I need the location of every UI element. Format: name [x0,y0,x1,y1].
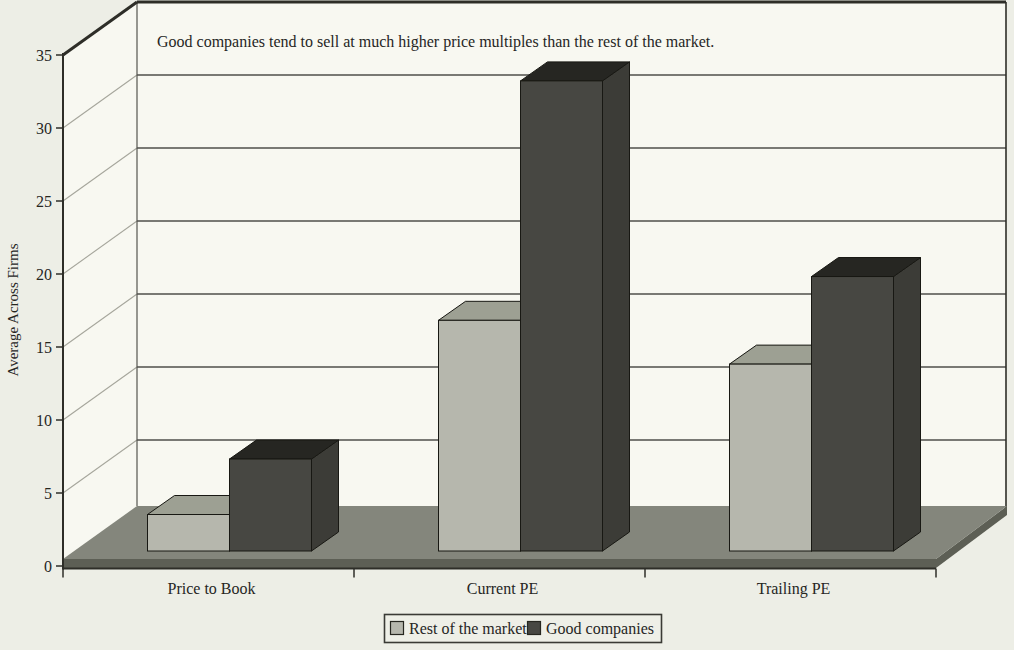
bar-front-face [730,364,812,551]
y-tick-label: 10 [36,412,52,429]
y-tick-label: 30 [36,120,52,137]
bar-chart-canvas: 05101520253035Price to BookCurrent PETra… [0,0,1014,650]
x-category-label: Price to Book [168,580,256,597]
legend-swatch-good-companies [528,622,541,635]
y-tick-label: 25 [36,193,52,210]
bar-current-pe-good-companies [521,62,630,551]
legend-label-rest-of-market: Rest of the market [409,620,527,637]
bar-side-face [894,258,921,551]
bar-front-face [812,277,894,551]
y-tick-label: 20 [36,266,52,283]
x-category-label: Trailing PE [757,580,831,598]
bar-side-face [603,62,630,551]
legend-swatch-rest-of-market [391,622,404,635]
bar-front-face [439,320,521,551]
y-axis-title: Average Across Firms [5,243,21,376]
y-tick-label: 15 [36,339,52,356]
bar-price-to-book-good-companies [230,440,339,551]
y-tick-label: 5 [44,485,52,502]
x-category-label: Current PE [467,580,539,597]
floor-front-edge [63,559,936,568]
y-tick-label: 0 [44,558,52,575]
legend-label-good-companies: Good companies [546,620,654,638]
side-wall [63,2,137,566]
chart: 05101520253035Price to BookCurrent PETra… [0,0,1014,650]
chart-title: Good companies tend to sell at much high… [157,33,714,51]
bar-front-face [521,81,603,551]
y-tick-label: 35 [36,47,52,64]
legend: Rest of the market Good companies [385,615,662,643]
bar-front-face [230,459,312,551]
bar-front-face [148,515,230,552]
bar-trailing-pe-good-companies [812,258,921,551]
